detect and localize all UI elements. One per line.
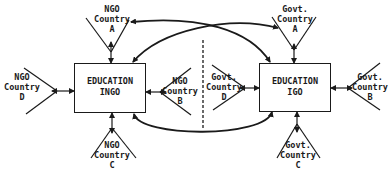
igo-line2: IGO — [260, 87, 330, 98]
govt-c-line3: C — [278, 160, 318, 170]
govt-d-line3: D — [204, 92, 244, 102]
arrow-ingo-to-govt-a — [133, 23, 278, 62]
govt-country-b-label: Govt. Country B — [350, 72, 390, 102]
govt-d-line2: Country — [204, 82, 244, 92]
ngo-d-line2: Country — [2, 82, 42, 92]
govt-country-a-label: Govt. Country A — [275, 4, 315, 34]
education-ingo-box: EDUCATION INGO — [74, 63, 146, 113]
ngo-b-line1: NGO — [160, 76, 200, 86]
govt-d-line1: Govt. — [204, 72, 244, 82]
govt-country-d-label: Govt. Country D — [204, 72, 244, 102]
ngo-a-line2: Country — [92, 14, 132, 24]
ngo-b-line2: Country — [160, 86, 200, 96]
ngo-country-d-label: NGO Country D — [2, 72, 42, 102]
ngo-d-line3: D — [2, 92, 42, 102]
ngo-country-c-label: NGO Country C — [92, 140, 132, 170]
igo-line1: EDUCATION — [260, 76, 330, 87]
govt-a-line3: A — [275, 24, 315, 34]
ngo-d-line1: NGO — [2, 72, 42, 82]
ngo-country-b-label: NGO Country B — [160, 76, 200, 106]
diagram: EDUCATION INGO EDUCATION IGO NGO Country… — [0, 0, 391, 172]
education-igo-label: EDUCATION IGO — [260, 76, 330, 98]
govt-b-line1: Govt. — [350, 72, 390, 82]
ngo-c-line1: NGO — [92, 140, 132, 150]
ngo-a-line1: NGO — [92, 4, 132, 14]
ngo-b-line3: B — [160, 96, 200, 106]
govt-c-line1: Govt. — [278, 140, 318, 150]
govt-b-line2: Country — [350, 82, 390, 92]
education-igo-box: EDUCATION IGO — [259, 63, 331, 112]
ngo-country-a-label: NGO Country A — [92, 4, 132, 34]
arrow-ngo-a-to-igo — [131, 20, 270, 62]
ingo-line1: EDUCATION — [75, 76, 145, 87]
govt-b-line3: B — [350, 92, 390, 102]
govt-a-line1: Govt. — [275, 4, 315, 14]
govt-country-c-label: Govt. Country C — [278, 140, 318, 170]
ngo-a-line3: A — [92, 24, 132, 34]
education-ingo-label: EDUCATION INGO — [75, 76, 145, 98]
govt-a-line2: Country — [275, 14, 315, 24]
ngo-c-line2: Country — [92, 150, 132, 160]
ngo-c-line3: C — [92, 160, 132, 170]
govt-c-line2: Country — [278, 150, 318, 160]
ingo-line2: INGO — [75, 87, 145, 98]
